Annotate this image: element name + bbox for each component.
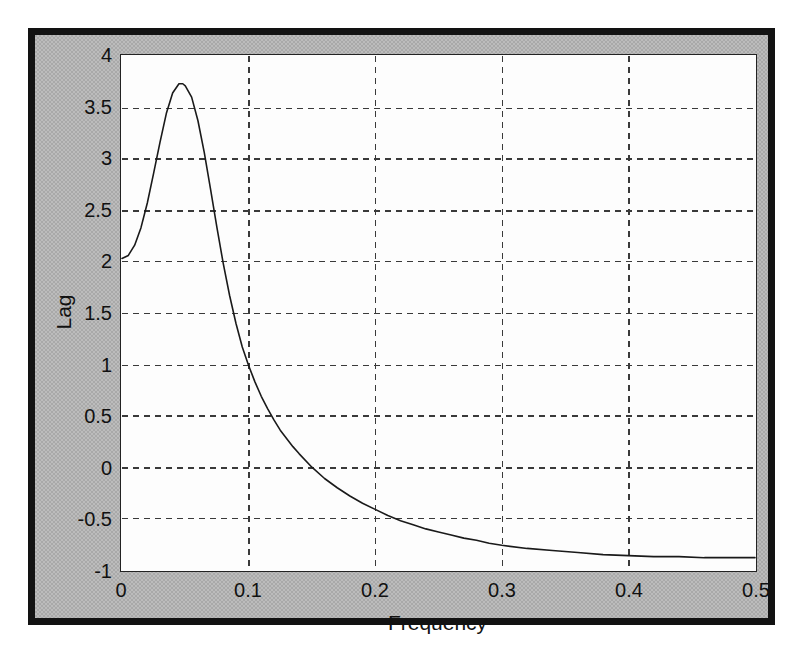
data-series-line [122, 84, 755, 558]
plot-svg [121, 55, 756, 571]
y-tick-label: 2 [101, 251, 112, 271]
y-tick-label: 1.5 [84, 303, 112, 323]
x-tick-label: 0.4 [615, 580, 643, 600]
x-tick-label: 0.3 [488, 580, 516, 600]
x-tick-label: 0.5 [742, 580, 770, 600]
x-tick-label: 0.2 [361, 580, 389, 600]
y-tick-label: 0 [101, 458, 112, 478]
figure-canvas-background: -1-0.500.511.522.533.54 00.10.20.30.40.5… [35, 35, 768, 618]
y-tick-label: -0.5 [78, 509, 112, 529]
plot-axes-area [120, 54, 757, 572]
x-tick-label: 0.1 [234, 580, 262, 600]
y-tick-label: -1 [94, 561, 112, 581]
y-tick-label: 3.5 [84, 97, 112, 117]
y-tick-label: 4 [101, 45, 112, 65]
grid-lines [122, 56, 755, 570]
data-series-lines [122, 84, 755, 558]
y-tick-label: 0.5 [84, 406, 112, 426]
figure-root: -1-0.500.511.522.533.54 00.10.20.30.40.5… [0, 0, 805, 658]
figure-outer-frame: -1-0.500.511.522.533.54 00.10.20.30.40.5… [28, 28, 775, 625]
y-tick-label: 3 [101, 148, 112, 168]
x-tick-label: 0 [115, 580, 126, 600]
y-tick-label: 2.5 [84, 200, 112, 220]
x-axis-title: Frequency [388, 612, 487, 634]
y-tick-label: 1 [101, 355, 112, 375]
y-axis-title: Lag [53, 294, 75, 329]
